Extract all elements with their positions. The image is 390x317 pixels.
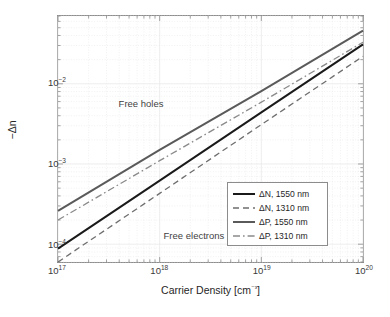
legend-item-label: ΔP, 1550 nm (259, 217, 308, 227)
legend-item-label: ΔN, 1310 nm (259, 203, 309, 213)
legend-item-2: ΔP, 1550 nm (228, 215, 327, 229)
legend-item-label: ΔN, 1550 nm (259, 189, 309, 199)
x-tick-label-1: 1018 (150, 266, 168, 276)
legend-line-sample-icon (232, 203, 256, 213)
y-tick-label-1: 10−3 (48, 159, 66, 169)
y-tick-label-0: 10−2 (48, 79, 66, 89)
x-tick-label-2: 1019 (253, 266, 271, 276)
x-tick-label-3: 1020 (355, 266, 373, 276)
legend-line-sample-icon (232, 189, 256, 199)
legend-line-sample-icon (232, 231, 256, 241)
y-tick-label-2: 10−4 (48, 240, 66, 250)
y-axis-label: −Δn (6, 100, 18, 160)
annotation-free-electrons: Free electrons (164, 230, 225, 241)
legend-item-label: ΔP, 1310 nm (259, 231, 308, 241)
legend-box: ΔN, 1550 nmΔN, 1310 nmΔP, 1550 nmΔP, 131… (227, 182, 328, 246)
x-tick-label-0: 1017 (48, 266, 66, 276)
legend-item-0: ΔN, 1550 nm (228, 187, 327, 201)
legend-line-sample-icon (232, 217, 256, 227)
annotation-free-holes: Free holes (119, 98, 164, 109)
x-axis-label: Carrier Density [cm⁻³] (57, 284, 364, 296)
figure-canvas: 101710181019102010−210−310−4 Carrier Den… (0, 0, 390, 317)
legend-item-3: ΔP, 1310 nm (228, 229, 327, 243)
legend-item-1: ΔN, 1310 nm (228, 201, 327, 215)
